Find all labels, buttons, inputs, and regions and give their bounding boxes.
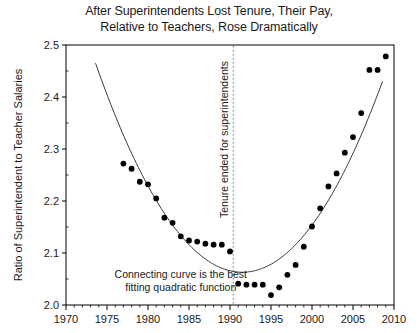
data-point	[129, 166, 135, 172]
data-point	[186, 238, 192, 244]
x-axis-tick-label: 1990	[218, 313, 242, 325]
y-axis-tick-label: 2.2	[44, 195, 59, 207]
data-point	[162, 215, 168, 221]
data-point	[375, 67, 381, 73]
annotation-tenure-ended: Tenure ended for superintendents	[218, 61, 230, 218]
chart-figure: After Superintendents Lost Tenure, Their…	[0, 0, 418, 333]
data-point	[170, 220, 176, 226]
data-point	[219, 242, 225, 248]
data-point	[121, 161, 127, 167]
y-axis-tick-label: 2.0	[44, 299, 59, 311]
data-point	[178, 233, 184, 239]
data-point	[227, 249, 233, 255]
data-point	[342, 150, 348, 156]
data-point	[244, 282, 250, 288]
data-point	[309, 224, 315, 230]
annotation-curve-note-line-1: Connecting curve is the best	[115, 268, 248, 280]
data-point	[145, 181, 151, 187]
data-point	[153, 196, 159, 202]
data-point	[317, 205, 323, 211]
data-point	[137, 179, 143, 185]
data-point	[334, 171, 340, 177]
annotation-curve-note-line-2: fitting quadratic function	[125, 281, 236, 293]
data-point	[367, 67, 373, 73]
quadratic-fit-curve	[96, 63, 383, 272]
y-axis-tick-label: 2.4	[44, 91, 59, 103]
data-point	[203, 241, 209, 247]
x-axis-tick-label: 2005	[341, 313, 365, 325]
x-axis-tick-label: 1970	[54, 313, 78, 325]
data-point	[358, 110, 364, 116]
data-point	[350, 134, 356, 140]
x-axis-tick-label: 1995	[259, 313, 283, 325]
x-axis-tick-label: 2010	[382, 313, 406, 325]
x-axis-tick-label: 1980	[136, 313, 160, 325]
data-point	[194, 239, 200, 245]
data-point	[211, 242, 217, 248]
x-axis-tick-label: 1985	[177, 313, 201, 325]
data-point	[268, 292, 274, 298]
data-point	[252, 282, 258, 288]
y-axis-tick-label: 2.3	[44, 143, 59, 155]
data-point	[293, 262, 299, 268]
scatter-plot: 2.02.12.22.32.42.51970197519801985199019…	[0, 0, 418, 333]
y-axis-title: Ratio of Superintendent to Teacher Salar…	[12, 68, 24, 281]
data-point	[260, 282, 266, 288]
x-axis-tick-label: 1975	[95, 313, 119, 325]
data-point	[276, 284, 282, 290]
data-point	[285, 272, 291, 278]
y-axis-tick-label: 2.5	[44, 39, 59, 51]
y-axis-tick-label: 2.1	[44, 247, 59, 259]
data-point	[383, 54, 389, 60]
data-point	[301, 244, 307, 250]
data-point	[326, 184, 332, 190]
x-axis-tick-label: 2000	[300, 313, 324, 325]
